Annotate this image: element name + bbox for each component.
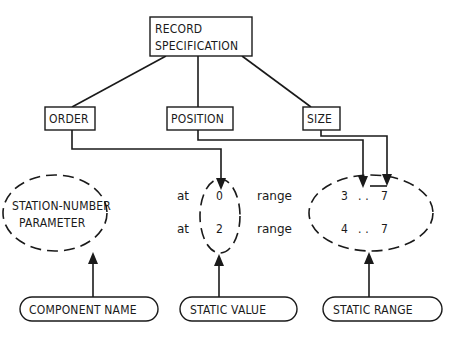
arrowhead-legend-component (88, 252, 98, 264)
legend-static-value-label: STATIC VALUE (190, 303, 266, 317)
legend-static-value: STATIC VALUE (180, 297, 297, 321)
at-keyword-1: at (177, 189, 189, 203)
size-node: SIZE (303, 107, 340, 130)
root-label-line2: SPECIFICATION (155, 39, 238, 53)
component-name-ellipse: STATION-NUMBER PARAMETER (3, 175, 111, 251)
range-dots-1: . . (358, 189, 369, 203)
legend-static-range-label: STATIC RANGE (333, 303, 413, 317)
connector-root-order (72, 56, 166, 107)
arrowhead-position (358, 176, 368, 188)
connector-position-range (198, 130, 363, 178)
legend-static-range: STATIC RANGE (323, 297, 442, 321)
legend-component-name-label: COMPONENT NAME (29, 303, 137, 317)
position-value-2: 2 (216, 222, 223, 236)
connector-size-range (321, 130, 387, 176)
arrowhead-legend-range (364, 252, 374, 264)
root-label-line1: RECORD (155, 22, 202, 36)
size-label: SIZE (307, 112, 332, 126)
order-label: ORDER (49, 112, 89, 126)
range-low-1: 3 (341, 189, 348, 203)
range-keyword-2: range (257, 222, 292, 236)
component-label-line1: STATION-NUMBER (12, 199, 111, 213)
record-specification-diagram: RECORD SPECIFICATION ORDER POSITION SIZE… (0, 0, 464, 342)
order-node: ORDER (45, 107, 95, 130)
range-high-2: 7 (381, 222, 388, 236)
static-value-ellipse: 0 2 (200, 179, 240, 253)
arrowhead-size (382, 174, 392, 186)
range-low-2: 4 (341, 222, 348, 236)
position-label: POSITION (171, 112, 224, 126)
range-high-1: 7 (381, 189, 388, 203)
record-specification-node: RECORD SPECIFICATION (150, 17, 252, 56)
legend-component-name: COMPONENT NAME (20, 297, 158, 321)
range-keyword-1: range (257, 189, 292, 203)
position-node: POSITION (167, 107, 233, 130)
component-label-line2: PARAMETER (19, 216, 86, 230)
at-keyword-2: at (177, 222, 189, 236)
connector-root-size (242, 56, 311, 107)
position-value-1: 0 (216, 189, 223, 203)
range-dots-2: . . (358, 222, 369, 236)
arrowhead-legend-value (214, 254, 224, 266)
